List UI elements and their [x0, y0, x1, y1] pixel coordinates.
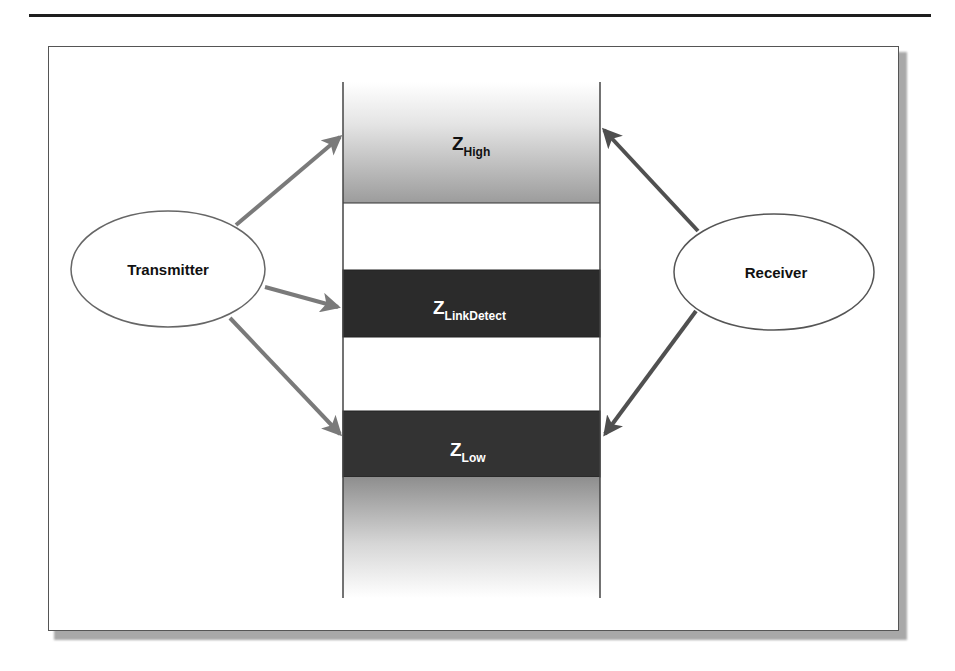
transmitter-node: Transmitter: [71, 211, 265, 327]
z-low-gradient: [343, 477, 600, 598]
z-high-band: [343, 82, 600, 203]
arrow-icon: [230, 318, 340, 434]
arrow-icon: [236, 137, 340, 225]
transmitter-label: Transmitter: [127, 261, 209, 278]
impedance-diagram: ZHigh ZLinkDetect ZLow Transmitter Recei…: [0, 0, 955, 671]
impedance-column: [343, 82, 600, 598]
arrow-icon: [265, 287, 338, 307]
receiver-label: Receiver: [745, 264, 808, 281]
arrow-icon: [605, 311, 696, 434]
receiver-node: Receiver: [674, 214, 874, 330]
z-linkdetect-band: [343, 270, 600, 337]
arrow-icon: [604, 130, 698, 231]
z-low-band: [343, 411, 600, 477]
